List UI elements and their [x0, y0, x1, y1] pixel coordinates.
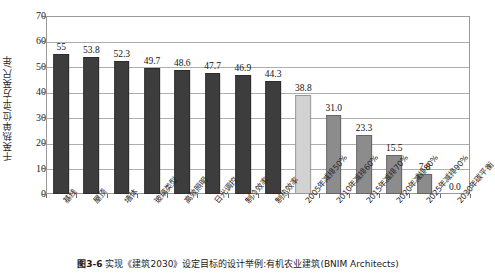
- bar[interactable]: [265, 81, 281, 194]
- bar[interactable]: [53, 54, 69, 194]
- bar-value-label: 52.3: [113, 49, 130, 59]
- bar-group[interactable]: 49.7: [137, 16, 167, 194]
- bar-group[interactable]: 46.9: [228, 16, 258, 194]
- bar-value-label: 55: [56, 42, 66, 52]
- figure-caption-text: 实现《建筑2030》设定目标的设计举例:有机农业建筑(BNIM Architec…: [105, 259, 398, 269]
- bar-group[interactable]: 55: [46, 16, 76, 194]
- bar-value-label: 44.3: [265, 69, 282, 79]
- bar-group[interactable]: 52.3: [107, 16, 137, 194]
- figure-caption: 图3-6 实现《建筑2030》设定目标的设计举例:有机农业建筑(BNIM Arc…: [0, 259, 476, 273]
- bar[interactable]: [144, 68, 160, 194]
- bar-value-label: 53.8: [83, 45, 100, 55]
- bar-value-label: 49.7: [144, 56, 161, 66]
- bar-value-label: 15.5: [386, 143, 403, 153]
- bar-value-label: 46.9: [235, 63, 252, 73]
- bar[interactable]: [84, 57, 100, 194]
- bar-group[interactable]: 44.3: [258, 16, 288, 194]
- bar-group[interactable]: 53.8: [76, 16, 106, 194]
- bar[interactable]: [114, 61, 130, 194]
- bar[interactable]: [174, 70, 190, 194]
- bar[interactable]: [235, 75, 251, 194]
- y-axis-ticks: 010203040506070: [12, 16, 46, 194]
- bars-layer: 5553.852.349.748.647.746.944.338.831.023…: [46, 16, 470, 194]
- bar-value-label: 48.6: [174, 58, 191, 68]
- figure-number: 图3-6: [77, 259, 102, 269]
- bar-group[interactable]: 48.6: [167, 16, 197, 194]
- bar-value-label: 38.8: [295, 83, 312, 93]
- x-axis-labels: 基线屋顶墙体玻璃类型高效照明日光调控制冷效率制热效率2005年减排50%2010…: [46, 196, 470, 258]
- bar-group[interactable]: 38.8: [288, 16, 318, 194]
- bar-group[interactable]: 47.7: [197, 16, 227, 194]
- bar-value-label: 31.0: [325, 103, 342, 113]
- bar[interactable]: [205, 73, 221, 194]
- bar-value-label: 23.3: [356, 123, 373, 133]
- bar-value-label: 47.7: [204, 61, 221, 71]
